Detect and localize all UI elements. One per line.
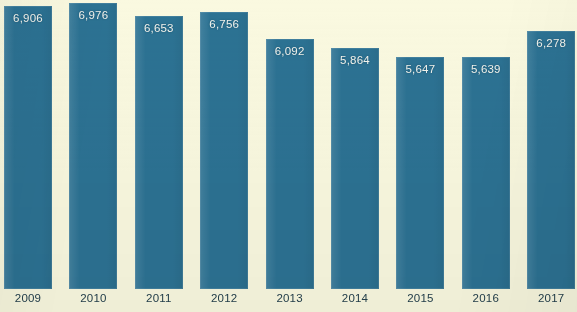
bar[interactable] [4, 6, 52, 289]
bar[interactable] [462, 57, 510, 289]
bar-group: 6,906 [4, 0, 52, 312]
bar[interactable] [527, 31, 575, 289]
x-axis-tick-label: 2012 [200, 293, 248, 305]
bar[interactable] [396, 57, 444, 289]
x-axis-tick-label: 2015 [396, 293, 444, 305]
x-axis-tick-label: 2009 [4, 293, 52, 305]
x-axis-tick-label: 2017 [527, 293, 575, 305]
x-axis: 200920102011201220132014201520162017 [0, 289, 577, 312]
bar-group: 6,092 [266, 0, 314, 312]
bar-value-label: 6,278 [527, 38, 575, 50]
bar-group: 6,976 [69, 0, 117, 312]
bar-value-label: 5,639 [462, 64, 510, 76]
x-axis-tick-label: 2013 [266, 293, 314, 305]
x-axis-tick-label: 2010 [69, 293, 117, 305]
x-axis-tick-label: 2011 [135, 293, 183, 305]
bar[interactable] [69, 3, 117, 289]
bar-group: 6,756 [200, 0, 248, 312]
bar-group: 5,864 [331, 0, 379, 312]
bar-chart: 6,9066,9766,6536,7566,0925,8645,6475,639… [0, 0, 577, 312]
bar-value-label: 5,864 [331, 55, 379, 67]
bar[interactable] [135, 16, 183, 289]
x-axis-tick-label: 2016 [462, 293, 510, 305]
bar-value-label: 6,653 [135, 23, 183, 35]
plot-area: 6,9066,9766,6536,7566,0925,8645,6475,639… [0, 0, 577, 312]
bar-value-label: 6,906 [4, 13, 52, 25]
x-axis-tick-label: 2014 [331, 293, 379, 305]
bar-value-label: 5,647 [396, 64, 444, 76]
bar[interactable] [200, 12, 248, 289]
bar[interactable] [266, 39, 314, 289]
bar-group: 5,647 [396, 0, 444, 312]
bar-group: 5,639 [462, 0, 510, 312]
bar[interactable] [331, 48, 379, 289]
bar-group: 6,653 [135, 0, 183, 312]
bar-value-label: 6,976 [69, 10, 117, 22]
bar-value-label: 6,756 [200, 19, 248, 31]
bar-group: 6,278 [527, 0, 575, 312]
bar-value-label: 6,092 [266, 46, 314, 58]
